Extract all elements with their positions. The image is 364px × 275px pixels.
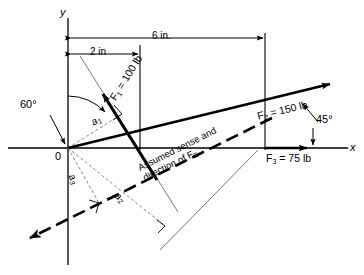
diagram-canvas bbox=[0, 0, 364, 275]
dimension-label-6in: 6 in. bbox=[152, 30, 171, 41]
force-label-f3-value: = 75 lb bbox=[276, 152, 311, 164]
axis-x-label: x bbox=[350, 141, 356, 153]
angle-label-60: 60° bbox=[20, 98, 37, 110]
origin-label: 0 bbox=[55, 150, 61, 162]
force-label-f3: F3 = 75 lb bbox=[266, 152, 311, 166]
angle-label-45: 45° bbox=[316, 113, 333, 125]
axis-y-label: y bbox=[60, 6, 66, 18]
dimension-label-2in: 2 in bbox=[90, 46, 106, 57]
force-diagram-figure: y x 0 6 in. 2 in 60° 45° F1 = 100 lb F2 … bbox=[0, 0, 364, 275]
